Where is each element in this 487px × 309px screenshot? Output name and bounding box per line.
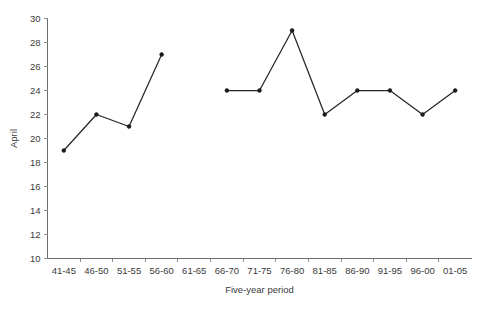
chart-plot-area: 101214161820222426283041-4546-5051-5556-… — [0, 0, 487, 309]
x-axis-tick-label: 56-60 — [149, 265, 173, 276]
y-axis-tick-label: 20 — [30, 133, 41, 144]
x-axis-tick-label: 76-80 — [280, 265, 304, 276]
x-axis-tick-label: 81-85 — [313, 265, 337, 276]
x-axis-tick-label: 66-70 — [215, 265, 239, 276]
series-data-point[interactable] — [453, 89, 457, 93]
series-data-point[interactable] — [160, 53, 164, 57]
line-chart-figure: 101214161820222426283041-4546-5051-5556-… — [0, 0, 487, 309]
series-data-point[interactable] — [355, 89, 359, 93]
series-line-segment — [227, 31, 455, 115]
y-axis-tick-label: 28 — [30, 37, 41, 48]
series-data-point[interactable] — [290, 29, 294, 33]
x-axis-tick-label: 46-50 — [84, 265, 108, 276]
series-line-segment — [64, 55, 162, 151]
series-data-point[interactable] — [127, 125, 131, 129]
x-axis-tick-label: 71-75 — [247, 265, 271, 276]
series-data-point[interactable] — [258, 89, 262, 93]
y-axis-tick-label: 14 — [30, 205, 41, 216]
x-axis-tick-label: 91-95 — [378, 265, 402, 276]
y-axis-tick-label: 16 — [30, 181, 41, 192]
y-axis-tick-label: 18 — [30, 157, 41, 168]
y-axis-tick-label: 10 — [30, 253, 41, 264]
y-axis-tick-label: 30 — [30, 13, 41, 24]
x-axis-title: Five-year period — [225, 284, 294, 295]
x-axis-tick-label: 86-90 — [345, 265, 369, 276]
y-axis-tick-label: 26 — [30, 61, 41, 72]
series-data-point[interactable] — [225, 89, 229, 93]
series-data-point[interactable] — [95, 113, 99, 117]
series-data-point[interactable] — [421, 113, 425, 117]
series-data-point[interactable] — [388, 89, 392, 93]
x-axis-tick-label: 01-05 — [443, 265, 467, 276]
series-data-point[interactable] — [62, 149, 66, 153]
series-data-point[interactable] — [323, 113, 327, 117]
y-axis-tick-label: 24 — [30, 85, 41, 96]
y-axis-tick-label: 12 — [30, 229, 41, 240]
x-axis-tick-label: 51-55 — [117, 265, 141, 276]
x-axis-tick-label: 41-45 — [52, 265, 76, 276]
x-axis-tick-label: 61-65 — [182, 265, 206, 276]
x-axis-tick-label: 96-00 — [410, 265, 434, 276]
y-axis-tick-label: 22 — [30, 109, 41, 120]
y-axis-title: April — [8, 129, 19, 148]
